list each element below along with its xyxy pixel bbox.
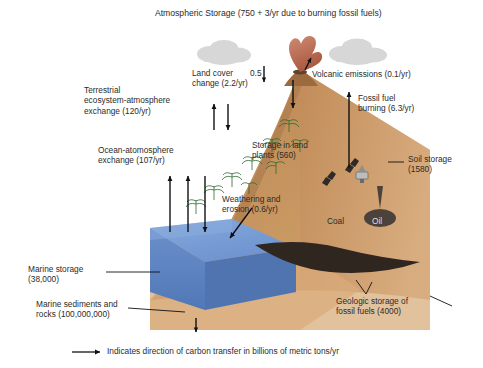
label-coal-deposit: Coal: [327, 216, 353, 226]
label-geologic-storage-fossil-fuels: Geologic storage of fossil fuels (4000): [336, 296, 442, 317]
legend-text: Indicates direction of carbon transfer i…: [107, 346, 437, 356]
label-oil-deposit: Oil: [372, 216, 392, 226]
label-land-cover-change: Land cover change (2.2/yr): [192, 68, 250, 89]
label-terrestrial-ecosystem-exchange: Terrestrial ecosystem-atmosphere exchang…: [84, 85, 194, 116]
label-marine-sediments-and-rocks: Marine sediments and rocks (100,000,000): [36, 299, 136, 320]
label-storage-in-land-plants: Storage in land plants (560): [252, 140, 330, 161]
carbon-cycle-diagram: Atmospheric Storage (750 + 3/yr due to b…: [0, 0, 483, 368]
page-title: Atmospheric Storage (750 + 3/yr due to b…: [155, 8, 382, 18]
label-land-cover-change-value: 0.5: [250, 68, 268, 78]
cloud-left: [197, 40, 251, 65]
label-volcanic-emissions: Volcanic emissions (0.1/yr): [312, 69, 442, 79]
label-marine-storage: Marine storage (38,000): [28, 264, 108, 285]
label-weathering-and-erosion: Weathering and erosion (0.6/yr): [222, 194, 304, 215]
label-soil-storage: Soil storage (1580): [408, 154, 468, 175]
label-ocean-atmosphere-exchange: Ocean-atomosphere exchange (107/yr): [98, 145, 202, 166]
label-fossil-fuel-burning: Fossil fuel burning (6.3/yr): [358, 93, 430, 114]
cloud-right: [329, 39, 387, 66]
